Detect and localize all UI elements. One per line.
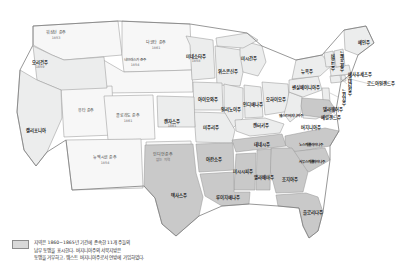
legend-line-3: 동맹을 거부하고, 웨스트 버지니아주로서 연방에 가입하였다. bbox=[34, 254, 144, 262]
map-shapes bbox=[17, 21, 374, 238]
shape-indiana bbox=[244, 85, 263, 118]
confederate-swatch bbox=[12, 240, 29, 249]
shape-kansas bbox=[157, 96, 195, 127]
shape-new-mexico-territory bbox=[66, 139, 143, 190]
shape-new-hampshire bbox=[334, 49, 345, 67]
shape-pennsylvania bbox=[289, 76, 322, 97]
shape-alabama bbox=[256, 149, 271, 190]
legend-line-2: 남부 동맹을 표시한다. 버지니아주의 서북지방은 bbox=[34, 247, 144, 255]
shape-colorado-territory bbox=[104, 95, 155, 140]
shape-maine bbox=[344, 26, 374, 55]
shape-north-carolina bbox=[285, 128, 339, 152]
map-figure: 워싱턴 준주1853오리건주1859다코타 준주1861네브래스카 준주1854… bbox=[0, 0, 416, 279]
shape-florida bbox=[276, 193, 323, 238]
shape-dakota-territory bbox=[122, 21, 192, 72]
legend: 지역은 1860~1865년 기간에 존속한 11개 주들의 남부 동맹을 표시… bbox=[12, 239, 144, 262]
shape-mississippi bbox=[234, 153, 256, 190]
shape-kentucky bbox=[235, 118, 284, 136]
shape-vermont bbox=[324, 51, 335, 67]
shape-texas bbox=[144, 144, 203, 236]
legend-text: 지역은 1860~1865년 기간에 존속한 11개 주들의 남부 동맹을 표시… bbox=[34, 239, 144, 262]
shape-arkansas bbox=[196, 143, 234, 172]
legend-line-1: 지역은 1860~1865년 기간에 존속한 11개 주들의 bbox=[34, 239, 144, 247]
us-map-svg bbox=[0, 0, 416, 279]
shape-iowa bbox=[193, 82, 223, 110]
shape-virginia bbox=[301, 98, 336, 118]
